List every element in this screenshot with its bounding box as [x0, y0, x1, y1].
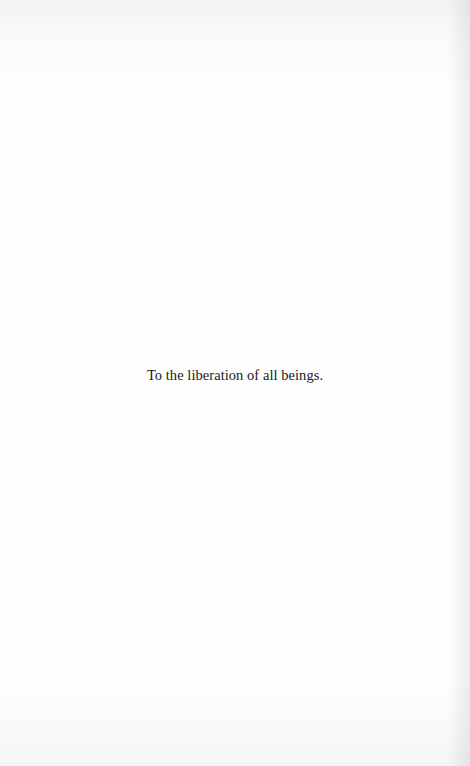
book-page: To the liberation of all beings. — [0, 0, 470, 766]
dedication-text: To the liberation of all beings. — [0, 366, 470, 384]
